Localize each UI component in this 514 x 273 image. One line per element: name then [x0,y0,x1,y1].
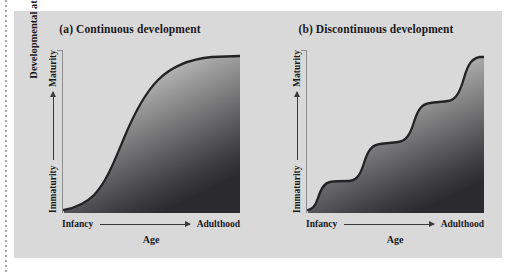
chart-a-svg [62,50,240,213]
x-axis-low-label-a: Infancy [62,219,93,229]
y-axis-arrow-b [297,92,298,161]
y-axis-high-label-a: Maturity [48,50,58,87]
x-axis-arrow-b [344,224,434,225]
figure-container: (a) Continuous development [14,11,502,258]
panel-a-title: (a) Continuous development [8,23,252,35]
panel-continuous-development: (a) Continuous development [14,11,258,258]
y-axis-high-label-b: Maturity [292,50,302,87]
x-axis-high-label-b: Adulthood [441,219,484,229]
chart-a-fill [64,56,240,213]
page-margin-rule [5,0,7,273]
y-axis-outer-label-a: Developmental attribute [28,0,39,84]
y-axis-range-b: Immaturity Maturity [290,50,304,213]
panel-discontinuous-development: (b) Discontinuous development [258,11,502,258]
x-axis-arrow-a [100,224,190,225]
plot-area-a: Developmental attribute Immaturity Matur… [62,50,240,213]
x-axis-low-label-b: Infancy [306,219,337,229]
chart-b-fill [308,57,484,213]
y-axis-line-a [62,50,63,213]
chart-b-svg [306,50,484,213]
y-axis-low-label-a: Immaturity [48,166,58,214]
x-axis-range-a: Infancy Adulthood [62,217,240,231]
y-axis-line-b [306,50,307,213]
y-axis-low-label-b: Immaturity [292,166,302,214]
y-axis-range-a: Immaturity Maturity [46,50,60,213]
x-axis-high-label-a: Adulthood [197,219,240,229]
panel-b-title: (b) Discontinuous development [254,23,498,35]
plot-area-b: Immaturity Maturity Infancy Adulthood Ag… [306,50,484,213]
x-axis-outer-label-b: Age [306,234,484,245]
y-axis-arrow-a [53,92,54,161]
x-axis-range-b: Infancy Adulthood [306,217,484,231]
x-axis-outer-label-a: Age [62,234,240,245]
